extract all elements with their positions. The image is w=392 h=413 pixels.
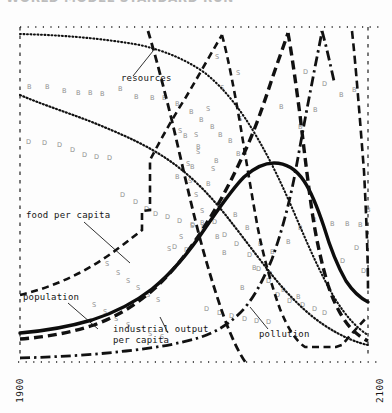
marker-d: D — [322, 80, 327, 88]
marker-s: S — [178, 127, 182, 135]
x-axis-end-label: 2100 — [374, 378, 385, 403]
marker-d: D — [303, 68, 308, 76]
marker-s: S — [200, 207, 204, 215]
marker-s: S — [236, 69, 240, 77]
marker-b: B — [345, 220, 350, 228]
marker-b: B — [134, 93, 139, 101]
marker-d: D — [120, 191, 125, 199]
marker-b: B — [199, 116, 204, 124]
marker-s: S — [190, 222, 194, 230]
plot-area: B B B B B B B B B B B B B B B B B B B B — [0, 11, 392, 413]
marker-d: D — [42, 139, 47, 147]
marker-b: B — [218, 131, 223, 139]
x-axis-start-label: 1900 — [14, 378, 25, 403]
marker-d: D — [153, 210, 158, 218]
marker-b: B — [62, 87, 67, 95]
marker-b: B — [233, 211, 238, 219]
marker-b: B — [279, 103, 284, 111]
marker-d: D — [26, 138, 31, 146]
marker-s: S — [196, 148, 200, 156]
marker-b: B — [190, 163, 195, 171]
marker-b: B — [118, 85, 123, 93]
marker-d: D — [133, 198, 138, 206]
leader-lines — [68, 51, 268, 333]
marker-d: D — [340, 257, 345, 265]
marker-d: D — [354, 244, 359, 252]
marker-b: B — [175, 173, 180, 181]
marker-b: B — [150, 94, 155, 102]
chart-title-strip: WORLD MODEL STANDARD RUN — [0, 0, 392, 11]
marker-b: B — [270, 248, 275, 256]
marker-b: B — [339, 91, 344, 99]
marker-d: D — [57, 141, 62, 149]
marker-b: B — [100, 90, 105, 98]
marker-s: S — [105, 260, 109, 268]
marker-s: S — [206, 105, 210, 113]
marker-b: B — [27, 83, 32, 91]
marker-b: B — [222, 249, 227, 257]
marker-s: S — [116, 269, 120, 277]
marker-s: S — [194, 191, 198, 199]
label-pollution: pollution — [259, 329, 310, 340]
marker-d: D — [256, 265, 261, 273]
marker-d: D — [322, 309, 327, 317]
marker-d: D — [70, 146, 75, 154]
label-resources: resources — [121, 73, 172, 84]
marker-d: D — [82, 151, 87, 159]
marker-b: B — [183, 132, 188, 140]
marker-d: D — [242, 315, 247, 323]
marker-d: D — [165, 213, 170, 221]
marker-b: B — [210, 123, 215, 131]
curve-pollution-upper — [322, 31, 334, 81]
marker-d: D — [172, 243, 177, 251]
marker-s: S — [194, 131, 198, 139]
marker-b: B — [215, 233, 220, 241]
marker-b: B — [214, 157, 219, 165]
marker-s: S — [186, 160, 190, 168]
marker-b: B — [228, 137, 233, 145]
marker-b: B — [206, 180, 211, 188]
marker-b: B — [45, 83, 50, 91]
marker-s: S — [215, 53, 219, 61]
marker-s: S — [179, 233, 183, 241]
marker-d: D — [266, 318, 271, 326]
marker-s: S — [92, 301, 96, 309]
marker-b: B — [189, 108, 194, 116]
marker-d: D — [177, 217, 182, 225]
chart-screenshot: WORLD MODEL STANDARD RUN B B B B B B B B — [0, 0, 392, 413]
marker-b: B — [240, 284, 245, 292]
marker-d: D — [234, 240, 239, 248]
marker-b: B — [286, 238, 291, 246]
marker-b: B — [330, 220, 335, 228]
marker-s: S — [211, 165, 215, 173]
page-title: WORLD MODEL STANDARD RUN — [6, 0, 234, 5]
marker-s: S — [136, 284, 140, 292]
marker-s: S — [167, 245, 171, 253]
marker-d: D — [204, 305, 209, 313]
marker-d: D — [107, 154, 112, 162]
marker-d: D — [247, 251, 252, 259]
marker-b: B — [358, 221, 363, 229]
marker-d: D — [222, 231, 227, 239]
marker-b: B — [236, 150, 241, 158]
marker-b: B — [88, 89, 93, 97]
curve-resources — [20, 34, 368, 335]
marker-d: D — [254, 317, 259, 325]
marker-s: S — [126, 277, 130, 285]
label-population: population — [23, 292, 79, 303]
curve-right-descender — [352, 31, 368, 293]
marker-b: B — [76, 89, 81, 97]
marker-b: B — [245, 224, 250, 232]
marker-s: S — [156, 296, 160, 304]
label-industrial-output: industrial output per capita — [113, 324, 209, 346]
marker-b: B — [296, 293, 301, 301]
marker-b: B — [313, 106, 318, 114]
marker-d: D — [94, 153, 99, 161]
marker-d: D — [361, 267, 366, 275]
label-food-per-capita: food per capita — [26, 210, 110, 221]
marker-d: D — [312, 305, 317, 313]
